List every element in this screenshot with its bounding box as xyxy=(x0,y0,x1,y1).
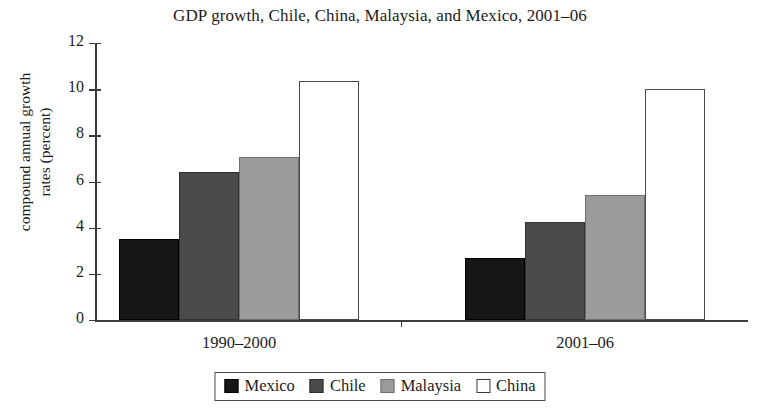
legend-swatch-malaysia-icon xyxy=(381,379,395,393)
legend-swatch-mexico-icon xyxy=(224,379,238,393)
chart-title: GDP growth, Chile, China, Malaysia, and … xyxy=(0,6,760,26)
bar-malaysia-1990-2000 xyxy=(239,157,299,320)
chart-legend: Mexico Chile Malaysia China xyxy=(214,372,545,401)
x-axis-line xyxy=(95,320,748,322)
legend-label-chile: Chile xyxy=(330,376,366,396)
legend-item-mexico: Mexico xyxy=(224,376,294,396)
legend-label-china: China xyxy=(496,376,535,396)
x-category-label-1990-2000: 1990–2000 xyxy=(119,333,359,353)
bar-mexico-1990-2000 xyxy=(119,239,179,320)
y-tick-label-4: 4 xyxy=(76,217,84,235)
y-tick-mark-6 xyxy=(95,182,101,183)
bar-china-2001-06 xyxy=(645,89,705,320)
y-tick-mark-12 xyxy=(95,43,101,44)
bar-chile-2001-06 xyxy=(525,222,585,320)
chart-figure: GDP growth, Chile, China, Malaysia, and … xyxy=(0,0,760,412)
plot-area: 12 10 8 6 4 2 0 1990– xyxy=(95,43,748,320)
legend-item-china: China xyxy=(476,376,535,396)
y-axis-label-line-1: compound annual growth xyxy=(15,22,35,282)
legend-item-malaysia: Malaysia xyxy=(381,376,461,396)
y-axis-label: compound annual growth rates (percent) xyxy=(15,22,59,282)
y-tick-0: 0 xyxy=(89,320,95,321)
bar-chile-1990-2000 xyxy=(179,172,239,320)
y-tick-label-12: 12 xyxy=(68,32,84,50)
y-tick-label-10: 10 xyxy=(68,78,84,96)
y-tick-mark-10 xyxy=(95,89,101,90)
y-axis-label-line-2: rates (percent) xyxy=(35,22,55,282)
y-tick-label-8: 8 xyxy=(76,124,84,142)
legend-swatch-china-icon xyxy=(476,379,490,393)
y-tick-label-2: 2 xyxy=(76,263,84,281)
x-category-label-2001-06: 2001–06 xyxy=(465,333,705,353)
bar-china-1990-2000 xyxy=(299,81,359,320)
legend-label-mexico: Mexico xyxy=(244,376,294,396)
legend-label-malaysia: Malaysia xyxy=(401,376,461,396)
y-tick-mark-8 xyxy=(95,135,101,136)
y-tick-mark-4 xyxy=(95,228,101,229)
bar-malaysia-2001-06 xyxy=(585,195,645,320)
bar-mexico-2001-06 xyxy=(465,258,525,320)
x-tick-group-separator xyxy=(401,320,402,327)
y-tick-label-6: 6 xyxy=(76,171,84,189)
legend-item-chile: Chile xyxy=(310,376,366,396)
y-tick-mark-2 xyxy=(95,274,101,275)
legend-swatch-chile-icon xyxy=(310,379,324,393)
y-tick-label-0: 0 xyxy=(76,309,84,327)
